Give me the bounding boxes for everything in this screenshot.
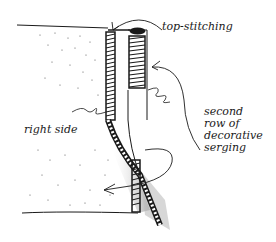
label-right-side: right side [24,124,78,136]
second-serging-row [128,28,147,176]
fabric-stipple [29,32,115,205]
thread-tail-upper [148,88,170,103]
fabric-bottom-edge [22,212,138,213]
label-top-stitching: top-stitching [162,21,233,33]
second-row-leader [152,67,200,150]
thread-tail-lower [72,108,106,114]
fabric-top-edge [17,25,108,28]
sewing-diagram: top-stitching right side second row of d… [0,0,276,242]
label-second-row-of-decorative-serging: second row of decorative serging [204,106,263,154]
